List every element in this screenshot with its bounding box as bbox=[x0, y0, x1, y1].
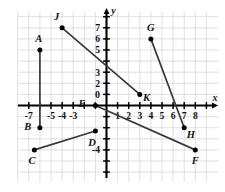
point-K bbox=[137, 92, 142, 97]
origin-label: 0 bbox=[95, 89, 100, 100]
x-tick-label: 7 bbox=[182, 110, 187, 121]
x-tick-label: 6 bbox=[171, 110, 176, 121]
x-tick-label: -3 bbox=[69, 110, 77, 121]
point-label-K: K bbox=[142, 92, 151, 103]
x-tick-label: -4 bbox=[58, 110, 66, 121]
point-label-E: E bbox=[78, 98, 86, 109]
x-tick-label: 8 bbox=[193, 110, 198, 121]
point-labels: ABCDEFGHJK bbox=[23, 11, 199, 166]
point-E bbox=[93, 103, 98, 108]
point-F bbox=[193, 147, 198, 152]
point-label-J: J bbox=[53, 11, 60, 22]
point-label-C: C bbox=[29, 155, 37, 166]
y-tick-label: 2 bbox=[95, 78, 100, 89]
segments bbox=[34, 28, 195, 150]
point-label-G: G bbox=[147, 22, 155, 33]
segment-CD bbox=[34, 131, 95, 150]
x-tick-label: 5 bbox=[160, 110, 165, 121]
x-axis-label: x bbox=[212, 92, 218, 103]
x-tick-label: -7 bbox=[25, 110, 33, 121]
y-axis-arrowhead bbox=[104, 8, 110, 14]
coordinate-plane-figure: -7-5-4-31234567876532-40 ABCDEFGHJK xy bbox=[0, 0, 225, 192]
axis-names: xy bbox=[110, 5, 217, 103]
y-tick-label: 3 bbox=[95, 67, 100, 78]
x-tick-label: -5 bbox=[47, 110, 55, 121]
y-tick-label: 5 bbox=[95, 44, 100, 55]
x-axis-arrowhead bbox=[212, 103, 218, 109]
point-J bbox=[60, 25, 65, 30]
y-tick-label: 6 bbox=[95, 33, 100, 44]
point-A bbox=[37, 48, 42, 53]
x-tick-label: 3 bbox=[137, 110, 142, 121]
grid-lines bbox=[18, 12, 219, 182]
point-label-F: F bbox=[191, 155, 199, 166]
y-tick-label: 7 bbox=[95, 22, 100, 33]
point-label-B: B bbox=[23, 121, 31, 132]
point-label-D: D bbox=[87, 137, 96, 148]
point-C bbox=[32, 147, 37, 152]
coordinate-plane-svg: -7-5-4-31234567876532-40 ABCDEFGHJK xy bbox=[0, 0, 225, 192]
point-D bbox=[93, 129, 98, 134]
x-tick-label: 4 bbox=[149, 110, 154, 121]
point-label-A: A bbox=[34, 33, 42, 44]
point-G bbox=[148, 36, 153, 41]
point-label-H: H bbox=[186, 129, 196, 140]
y-axis-label: y bbox=[110, 5, 116, 16]
point-B bbox=[37, 125, 42, 130]
